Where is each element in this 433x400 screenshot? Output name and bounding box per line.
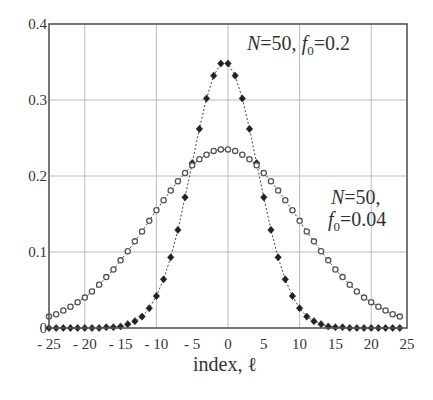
- data-point-f0-0.04: [333, 267, 338, 272]
- y-tick-label: 0.3: [28, 92, 47, 108]
- data-point-f0-0.2: [261, 194, 267, 201]
- data-point-f0-0.04: [190, 163, 195, 168]
- data-point-f0-0.2: [218, 60, 224, 67]
- data-point-f0-0.04: [354, 289, 359, 294]
- data-point-f0-0.04: [247, 157, 252, 162]
- data-point-f0-0.04: [104, 274, 109, 279]
- y-tick-label: 0.4: [28, 16, 47, 32]
- data-point-f0-0.2: [196, 125, 202, 132]
- data-point-f0-0.2: [139, 313, 145, 320]
- x-tick-label: 25: [400, 336, 415, 352]
- data-point-f0-0.2: [160, 276, 166, 283]
- data-point-f0-0.2: [268, 226, 274, 233]
- data-point-f0-0.04: [211, 148, 216, 153]
- data-point-f0-0.04: [82, 295, 87, 300]
- data-point-f0-0.2: [225, 60, 231, 67]
- data-point-f0-0.04: [218, 147, 223, 152]
- data-point-f0-0.04: [89, 289, 94, 294]
- x-tick-label: 5: [260, 336, 268, 352]
- x-tick-label: - 5: [184, 336, 200, 352]
- series-line: [49, 149, 400, 316]
- y-tick-label: 0.2: [28, 168, 47, 184]
- data-point-f0-0.04: [318, 249, 323, 254]
- x-axis-label: index, ℓ: [193, 353, 257, 375]
- data-point-f0-0.04: [347, 282, 352, 287]
- annotation-f0-0.04-line2: f0=0.04: [328, 208, 386, 234]
- data-point-f0-0.04: [225, 147, 230, 152]
- data-point-f0-0.04: [390, 312, 395, 317]
- data-point-f0-0.04: [397, 314, 402, 319]
- data-point-f0-0.04: [75, 300, 80, 305]
- data-point-f0-0.04: [261, 170, 266, 175]
- data-point-f0-0.04: [68, 304, 73, 309]
- data-point-f0-0.04: [233, 148, 238, 153]
- data-point-f0-0.04: [125, 249, 130, 254]
- data-point-f0-0.04: [132, 239, 137, 244]
- annotation-f0-0.2: N=50, f0=0.2: [246, 32, 350, 58]
- data-point-f0-0.2: [182, 194, 188, 201]
- data-point-f0-0.04: [304, 229, 309, 234]
- annotation-f0-0.04-line1: N=50,: [330, 186, 381, 208]
- x-tick-label: 20: [364, 336, 379, 352]
- data-point-f0-0.04: [283, 198, 288, 203]
- data-point-f0-0.2: [325, 323, 331, 330]
- x-tick-label: - 25: [37, 336, 61, 352]
- data-point-f0-0.04: [290, 208, 295, 213]
- data-point-f0-0.04: [97, 282, 102, 287]
- data-point-f0-0.04: [61, 308, 66, 313]
- data-point-f0-0.2: [282, 276, 288, 283]
- data-point-f0-0.04: [161, 198, 166, 203]
- y-tick-label: 0.1: [28, 244, 47, 260]
- data-point-f0-0.2: [203, 95, 209, 102]
- data-point-f0-0.2: [132, 318, 138, 325]
- data-point-f0-0.04: [276, 188, 281, 193]
- x-tick-label: - 10: [145, 336, 169, 352]
- data-point-f0-0.04: [204, 152, 209, 157]
- x-tick-label: 15: [328, 336, 343, 352]
- data-point-f0-0.04: [268, 179, 273, 184]
- data-point-f0-0.2: [210, 72, 216, 79]
- data-point-f0-0.04: [197, 157, 202, 162]
- y-tick-label: 0: [40, 320, 48, 336]
- data-point-f0-0.04: [361, 295, 366, 300]
- data-point-f0-0.04: [154, 208, 159, 213]
- data-point-f0-0.04: [240, 152, 245, 157]
- data-point-f0-0.2: [168, 254, 174, 261]
- data-point-f0-0.04: [311, 239, 316, 244]
- data-point-f0-0.2: [146, 305, 152, 312]
- x-tick-label: 0: [224, 336, 232, 352]
- data-point-f0-0.04: [383, 308, 388, 313]
- data-point-f0-0.2: [117, 323, 123, 330]
- x-tick-label: 10: [292, 336, 307, 352]
- data-point-f0-0.04: [376, 304, 381, 309]
- data-point-f0-0.04: [175, 179, 180, 184]
- data-point-f0-0.04: [297, 218, 302, 223]
- x-tick-label: - 15: [109, 336, 133, 352]
- chart-canvas: 00.10.20.30.4 - 25- 20- 15- 10- 50510152…: [0, 0, 433, 400]
- data-point-f0-0.2: [318, 321, 324, 328]
- data-point-f0-0.2: [125, 321, 131, 328]
- data-point-f0-0.04: [168, 188, 173, 193]
- data-point-f0-0.04: [369, 300, 374, 305]
- data-point-f0-0.04: [254, 163, 259, 168]
- data-point-f0-0.04: [340, 274, 345, 279]
- data-point-f0-0.04: [182, 170, 187, 175]
- y-axis-tick-labels: 00.10.20.30.4: [28, 16, 47, 336]
- data-point-f0-0.04: [147, 218, 152, 223]
- data-point-f0-0.04: [139, 229, 144, 234]
- data-point-f0-0.2: [246, 125, 252, 132]
- x-axis-tick-labels: - 25- 20- 15- 10- 50510152025: [37, 336, 414, 352]
- data-point-f0-0.2: [289, 292, 295, 299]
- data-point-f0-0.2: [232, 72, 238, 79]
- data-point-f0-0.2: [175, 226, 181, 233]
- x-tick-label: - 20: [73, 336, 97, 352]
- data-point-f0-0.04: [326, 258, 331, 263]
- grid-lines: [49, 24, 407, 328]
- data-point-f0-0.04: [111, 267, 116, 272]
- data-point-f0-0.2: [275, 254, 281, 261]
- data-point-f0-0.2: [239, 95, 245, 102]
- data-point-f0-0.2: [153, 292, 159, 299]
- data-point-f0-0.04: [54, 312, 59, 317]
- data-point-f0-0.2: [311, 318, 317, 325]
- data-point-f0-0.04: [118, 258, 123, 263]
